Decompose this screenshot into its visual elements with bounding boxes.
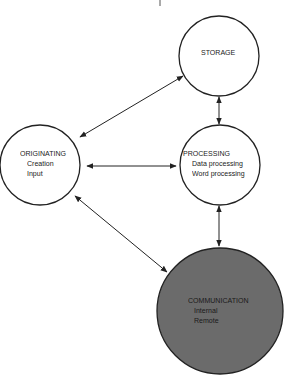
processing-line: Data processing xyxy=(192,159,243,169)
originating-line: Creation xyxy=(27,159,54,169)
diagram-canvas xyxy=(0,0,290,380)
processing-line: Word processing xyxy=(192,169,245,179)
originating-line: Input xyxy=(27,169,43,179)
edge-originating-communication xyxy=(75,196,167,272)
processing-title: PROCESSING xyxy=(183,149,230,159)
originating-title: ORIGINATING xyxy=(20,149,66,159)
communication-line: Internal xyxy=(194,306,217,316)
edge-originating-storage xyxy=(80,76,183,137)
storage-title: STORAGE xyxy=(201,48,235,58)
communication-line: Remote xyxy=(194,316,219,326)
communication-title: COMMUNICATION xyxy=(188,296,248,306)
communication-node xyxy=(157,248,283,374)
